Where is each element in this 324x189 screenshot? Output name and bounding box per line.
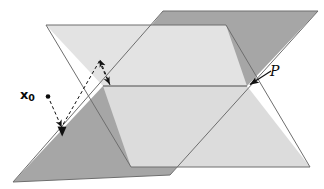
light-plane-top-half [46,25,247,86]
point-label-subscript: 0 [28,92,34,103]
plane-label-p: P [270,64,279,78]
point-label-x0: x0 [20,88,35,103]
dashed-x0-to-plane [50,101,62,127]
light-plane-lower-region [103,86,310,167]
light-plane-bottom-half [103,86,310,167]
point-label-base: x [20,87,28,102]
planes-diagram-svg [0,0,324,189]
light-plane-upper-region [46,25,247,86]
geometry-figure: x0 P [0,0,324,189]
x0-point-marker [46,94,51,99]
